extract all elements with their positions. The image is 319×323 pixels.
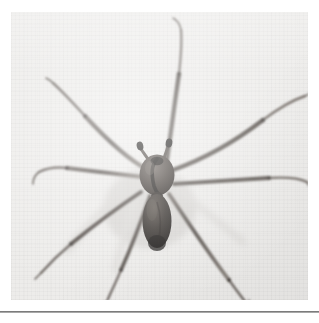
spider-photograph (11, 12, 308, 300)
scanned-page (0, 0, 319, 323)
page-footer-margin (0, 313, 319, 323)
film-grain-overlay (11, 12, 308, 300)
spider-illustration (11, 12, 308, 300)
